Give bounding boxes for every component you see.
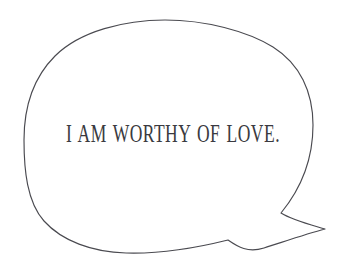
artwork-canvas: I AM WORTHY OF LOVE. <box>0 0 346 273</box>
speech-bubble-outline-path <box>24 20 325 253</box>
speech-bubble-graphic <box>0 0 346 273</box>
